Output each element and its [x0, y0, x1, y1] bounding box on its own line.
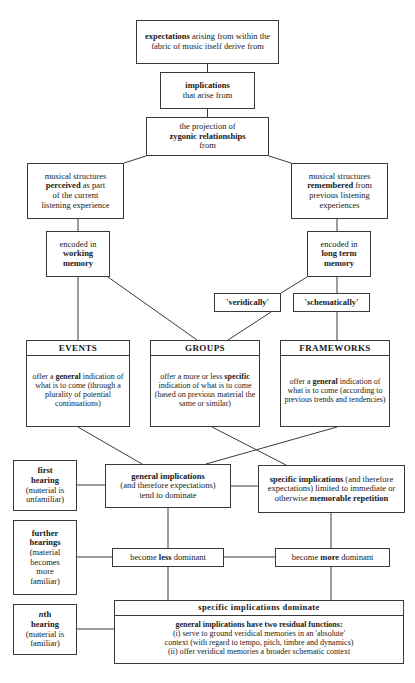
node-veridically[interactable]: 'veridically' [214, 293, 281, 312]
edge-longterm-veridically [281, 277, 307, 293]
node-further-hearings[interactable]: furtherhearings(materialbecomesmorefamil… [13, 520, 77, 595]
edge-zygonic-remembered [269, 156, 291, 163]
edge-groups-specific [212, 427, 286, 465]
node-frameworks[interactable]: FRAMEWORKS offer a general indication of… [280, 340, 390, 427]
node-groups[interactable]: GROUPS offer a more or less specific ind… [150, 340, 260, 427]
flowchart-diagram: expectations arising from within the fab… [0, 0, 415, 683]
node-become-more-dominant[interactable]: become more dominant [275, 548, 390, 567]
node-implications-text: implicationsthat arise from [164, 81, 251, 100]
node-final-header: specific implications dominate [115, 601, 403, 616]
node-perceived-text: musical structuresperceived as partof th… [31, 172, 120, 210]
node-frameworks-header: FRAMEWORKS [281, 341, 389, 356]
node-musical-structures-remembered[interactable]: musical structuresremembered frompreviou… [291, 163, 388, 219]
edge-events-general [78, 427, 142, 464]
node-frameworks-body: offer a general indication of what is to… [281, 356, 389, 426]
node-become-more-dominant-text: become more dominant [279, 553, 386, 563]
node-working-memory-text: encoded inworkingmemory [50, 240, 106, 269]
node-final-summary[interactable]: specific implications dominate general i… [114, 600, 404, 664]
node-further-hearings-text: furtherhearings(materialbecomesmorefamil… [17, 529, 73, 586]
node-first-hearing-text: firsthearing(material isunfamiliar) [17, 466, 73, 504]
node-schematically[interactable]: 'schematically' [293, 293, 370, 312]
node-become-less-dominant[interactable]: become less dominant [112, 548, 224, 567]
node-implications[interactable]: implicationsthat arise from [160, 72, 255, 109]
node-become-less-dominant-text: become less dominant [116, 553, 220, 563]
node-nth-hearing[interactable]: nthhearing(material isfamiliar) [13, 604, 77, 655]
node-groups-body: offer a more or less specific indication… [151, 356, 259, 426]
edge-zygonic-perceived [124, 156, 146, 163]
node-long-term-memory[interactable]: encoded inlong termmemory [307, 231, 371, 277]
node-schematically-text: 'schematically' [297, 298, 366, 308]
edge-frameworks-general [206, 427, 337, 464]
node-working-memory[interactable]: encoded inworkingmemory [46, 231, 110, 277]
node-remembered-text: musical structuresremembered frompreviou… [295, 172, 384, 210]
node-specific-implications-text: specific implications (and therefore exp… [262, 475, 401, 504]
edge-veridically-groups [228, 312, 271, 340]
node-events[interactable]: EVENTS offer a general indication of wha… [26, 340, 130, 427]
node-specific-implications[interactable]: specific implications (and therefore exp… [258, 465, 405, 513]
edge-working-groups [108, 277, 197, 340]
node-zygonic-text: the projection ofzygonic relationshipsfr… [150, 122, 265, 151]
node-expectations[interactable]: expectations arising from within the fab… [136, 20, 279, 64]
node-general-implications-text: general implications(and therefore expec… [109, 472, 227, 501]
node-veridically-text: 'veridically' [218, 298, 277, 308]
node-general-implications[interactable]: general implications(and therefore expec… [105, 464, 231, 508]
node-events-header: EVENTS [27, 341, 129, 356]
node-musical-structures-perceived[interactable]: musical structuresperceived as partof th… [27, 163, 124, 219]
final-line-4: (ii) offer veridical memories a broader … [118, 648, 400, 657]
node-final-body: general implications have two residual f… [115, 616, 403, 663]
node-events-body: offer a general indication of what is to… [27, 356, 129, 426]
node-nth-hearing-text: nthhearing(material isfamiliar) [17, 610, 73, 648]
node-long-term-memory-text: encoded inlong termmemory [311, 240, 367, 269]
node-expectations-text: expectations arising from within the fab… [140, 32, 275, 51]
node-first-hearing[interactable]: firsthearing(material isunfamiliar) [13, 460, 77, 511]
node-zygonic-relationships[interactable]: the projection ofzygonic relationshipsfr… [146, 117, 269, 156]
node-groups-header: GROUPS [151, 341, 259, 356]
